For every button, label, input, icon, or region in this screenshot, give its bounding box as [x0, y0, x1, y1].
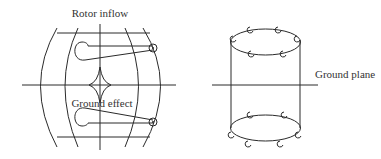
ground-effect-label: Ground effect: [71, 97, 132, 109]
rotor-inflow-label: Rotor inflow: [72, 7, 129, 19]
tip-vortex-dot-bottom: [152, 121, 154, 123]
vortex-curls-top: [230, 27, 300, 57]
vortex-ring-top: [231, 29, 301, 55]
tip-vortex-dot-top: [152, 47, 154, 49]
vortex-image-diagram: Ground plane: [212, 27, 375, 147]
streamline-outer-left: [41, 28, 58, 147]
tip-vortex-loop-top: [75, 42, 153, 60]
rotor-inflow-diagram: Rotor inflow Ground effect: [22, 7, 176, 150]
figure: Rotor inflow Ground effect Ground plane: [0, 0, 381, 159]
vortex-curl: [277, 141, 283, 147]
vortex-curl: [247, 112, 253, 118]
vortex-ring-image-bottom: [231, 115, 301, 141]
vortex-curl: [245, 141, 251, 147]
vortex-curls-bottom: [228, 112, 301, 147]
ground-plane-label: Ground plane: [315, 68, 375, 80]
tip-vortex-loop-bottom: [75, 108, 153, 126]
